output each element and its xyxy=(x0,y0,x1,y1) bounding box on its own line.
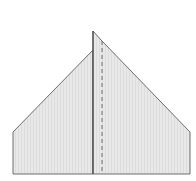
paper-fold-diagram xyxy=(0,0,196,181)
right-paper-panel xyxy=(93,31,190,174)
left-paper-panel xyxy=(13,50,93,174)
